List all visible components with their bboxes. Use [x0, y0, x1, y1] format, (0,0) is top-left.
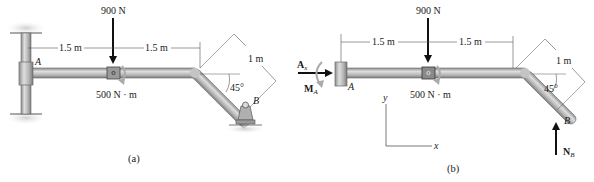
dim-right-a: 1.5 m — [145, 42, 168, 53]
point-a-label-b: A — [347, 81, 355, 92]
moment-label-b: 500 N · m — [410, 89, 451, 100]
x-axis-label: x — [433, 140, 439, 151]
collar-a — [19, 62, 33, 85]
force-label-a: 900 N — [101, 5, 126, 16]
y-axis-label: y — [382, 92, 388, 103]
point-b-label: B — [253, 95, 259, 106]
force-label-b: 900 N — [416, 5, 441, 16]
caption-a: (a) — [128, 153, 140, 165]
angle-b: 45° — [544, 83, 558, 94]
reaction-ma-label: MA — [304, 83, 318, 96]
ground-top — [8, 22, 44, 34]
reaction-nb-label: NB — [563, 146, 575, 159]
dim-incline-a: 1 m — [248, 53, 264, 64]
angle-a: 45° — [230, 82, 244, 93]
load-collar — [107, 67, 120, 79]
reaction-ax-label: Ax — [297, 59, 308, 72]
statics-diagram: 900 N 500 N · m A 1.5 m 1.5 m 1 m 45° B … — [0, 0, 594, 182]
load-collar-b — [422, 67, 435, 79]
block-a — [335, 62, 347, 86]
moment-label-a: 500 N · m — [96, 89, 137, 100]
elbow — [190, 68, 200, 78]
dim-incline-b: 1 m — [556, 55, 572, 66]
figure-b: 900 N 500 N · m A Ax MA 1.5 m 1.5 m 1 m … — [297, 5, 585, 175]
dim-left-a: 1.5 m — [59, 42, 82, 53]
dim-left-b: 1.5 m — [372, 36, 395, 47]
point-b-label-b: B — [564, 115, 570, 126]
figure-a: 900 N 500 N · m A 1.5 m 1.5 m 1 m 45° B … — [8, 5, 276, 165]
horizontal-pipe-b — [347, 68, 525, 78]
dim-right-b: 1.5 m — [459, 36, 482, 47]
caption-b: (b) — [447, 163, 460, 175]
point-a-label: A — [34, 56, 42, 67]
